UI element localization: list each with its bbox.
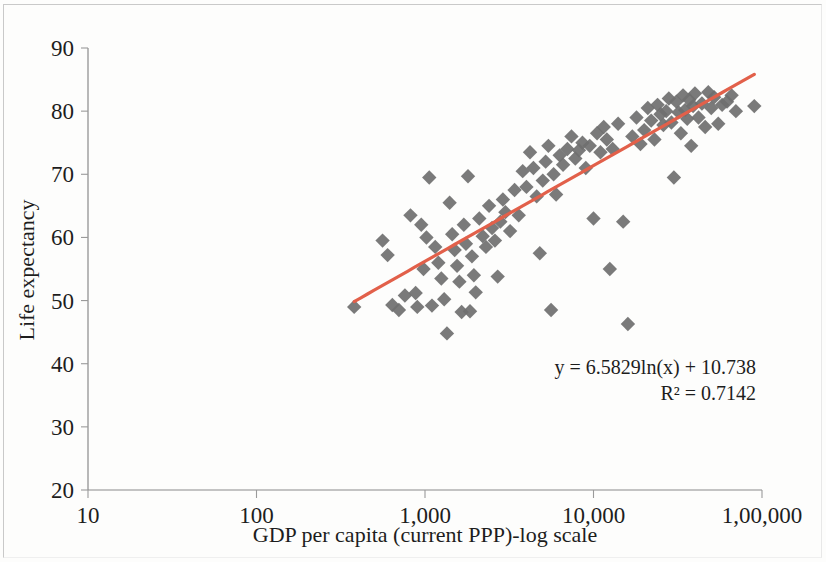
data-point: [442, 196, 456, 210]
data-point: [434, 271, 448, 285]
data-point: [422, 170, 436, 184]
y-tick-label: 20: [51, 478, 74, 503]
data-point: [403, 208, 417, 222]
y-tick-label: 90: [51, 36, 74, 61]
data-point: [375, 233, 389, 247]
data-point: [440, 326, 454, 340]
data-point: [729, 104, 743, 118]
r-squared-label: R² = 0.7142: [660, 382, 756, 404]
data-point: [467, 268, 481, 282]
y-tick-label: 30: [51, 415, 74, 440]
chart-figure: 2030405060708090 101001,00010,0001,00,00…: [0, 0, 826, 562]
data-point: [482, 199, 496, 213]
data-point: [457, 218, 471, 232]
data-point: [515, 164, 529, 178]
data-point: [711, 117, 725, 131]
data-point-markers: [347, 85, 761, 341]
data-point: [684, 139, 698, 153]
data-point: [564, 129, 578, 143]
y-axis-tick-labels: 2030405060708090: [51, 36, 74, 503]
data-point: [445, 227, 459, 241]
y-axis-title: Life expectancy: [14, 199, 39, 340]
y-tick-label: 70: [51, 162, 74, 187]
data-point: [469, 285, 483, 299]
y-tick-label: 60: [51, 225, 74, 250]
y-tick-label: 80: [51, 99, 74, 124]
data-point: [425, 298, 439, 312]
data-point: [526, 161, 540, 175]
data-point: [621, 317, 635, 331]
data-point: [519, 180, 533, 194]
data-point: [408, 286, 422, 300]
data-point: [674, 126, 688, 140]
data-point: [419, 230, 433, 244]
data-point: [544, 303, 558, 317]
data-point: [541, 139, 555, 153]
y-tick-label: 40: [51, 352, 74, 377]
data-point: [747, 99, 761, 113]
data-point: [380, 248, 394, 262]
data-point: [490, 269, 504, 283]
data-point: [437, 292, 451, 306]
y-axis-ticks: [81, 48, 88, 490]
data-point: [410, 300, 424, 314]
data-point: [629, 110, 643, 124]
scatter-plot: 2030405060708090 101001,00010,0001,00,00…: [0, 0, 826, 562]
data-point: [463, 304, 477, 318]
data-point: [667, 170, 681, 184]
x-tick-label: 10: [77, 503, 100, 528]
data-point: [507, 183, 521, 197]
data-point: [538, 154, 552, 168]
data-point: [461, 169, 475, 183]
data-point: [472, 211, 486, 225]
data-point: [503, 224, 517, 238]
data-point: [603, 262, 617, 276]
data-point: [616, 214, 630, 228]
data-point: [414, 218, 428, 232]
x-axis-ticks: [88, 490, 762, 498]
trendline: [354, 74, 754, 301]
data-point: [452, 274, 466, 288]
x-axis-title: GDP per capita (current PPP)-log scale: [253, 522, 597, 547]
data-point: [450, 259, 464, 273]
x-tick-label: 1,00,000: [722, 503, 803, 528]
data-point: [398, 288, 412, 302]
data-point: [586, 211, 600, 225]
data-point: [533, 246, 547, 260]
data-point: [611, 117, 625, 131]
data-point: [465, 249, 479, 263]
data-point: [523, 145, 537, 159]
regression-equation-label: y = 6.5829ln(x) + 10.738: [555, 356, 756, 379]
data-point: [496, 192, 510, 206]
y-tick-label: 50: [51, 289, 74, 314]
